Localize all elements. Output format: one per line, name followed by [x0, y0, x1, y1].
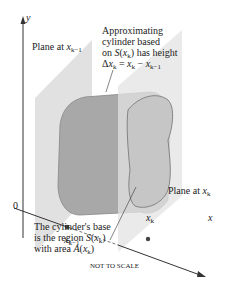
point-xk — [146, 237, 150, 241]
footer-note: NOT TO SCALE — [90, 261, 139, 272]
y-axis-label: y — [26, 12, 30, 23]
cylinder-note: Approximating cylinder based on S(xk) ha… — [102, 25, 177, 69]
x-axis-arrow-icon — [197, 271, 206, 277]
base-note: The cylinder's base is the region S(xk) … — [34, 221, 111, 254]
plane-right-label: Plane at xk — [168, 185, 210, 196]
leader-cylinder — [106, 70, 113, 92]
plane-left-label: Plane at xk−1 — [32, 41, 82, 52]
y-axis-arrow-icon — [21, 16, 26, 24]
point-right-label: xk — [146, 212, 154, 223]
x-axis-label: x — [208, 212, 212, 223]
origin-label: 0 — [13, 200, 18, 211]
